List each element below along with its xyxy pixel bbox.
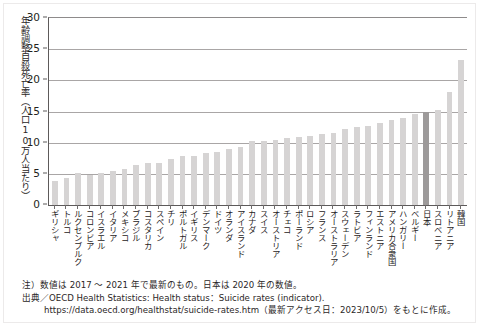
x-tick-label-オランダ: オランダ [224, 210, 232, 242]
x-tick-label-ハンガリー: ハンガリー [398, 210, 406, 250]
bar-メキシコ [122, 169, 128, 205]
x-tick-label-スロベニア: スロベニア [433, 210, 441, 250]
x-tick-label-ロシア: ロシア [305, 210, 313, 234]
figure-page: 年齢調整自殺死亡率（人口10万人当たり） 051015202530 ギリシャトル… [0, 0, 482, 332]
x-tick-mark-アイスランド [240, 205, 241, 209]
x-tick-label-アメリカ合衆国: アメリカ合衆国 [386, 210, 394, 266]
x-tick-mark-トルコ [65, 205, 66, 209]
bar-イスラエル [98, 173, 104, 205]
x-tick-mark-コスタリカ [147, 205, 148, 209]
y-tick-mark-25 [43, 48, 47, 49]
x-tick-mark-イギリス [193, 205, 194, 209]
x-tick-label-カナダ: カナダ [247, 210, 255, 234]
x-tick-label-日本: 日本 [421, 210, 429, 226]
y-axis-tick-group: 051015202530 [0, 0, 46, 206]
y-tick-mark-15 [43, 110, 47, 111]
x-tick-label-フランス: フランス [317, 210, 325, 242]
bar-group [49, 18, 467, 205]
y-tick-label-25: 25 [27, 42, 40, 54]
source-url[interactable]: https://data.oecd.org/healthstat/suicide… [22, 304, 259, 317]
x-tick-mark-アメリカ合衆国 [391, 205, 392, 209]
y-tick-label-5: 5 [33, 167, 40, 179]
y-tick-label-15: 15 [27, 105, 40, 117]
bar-イギリス [191, 156, 197, 205]
source-text: OECD Health Statistics: Health status：Su… [49, 293, 325, 303]
x-tick-label-アイスランド: アイスランド [235, 210, 243, 258]
bar-日本 [423, 112, 429, 206]
x-tick-mark-スウェーデン [344, 205, 345, 209]
bar-ラトビア [354, 127, 360, 205]
bar-チェコ [284, 138, 290, 205]
x-tick-mark-エストニア [379, 205, 380, 209]
x-tick-label-リトアニア: リトアニア [444, 210, 452, 250]
x-tick-mark-フィンランド [367, 205, 368, 209]
x-axis-label-group: ギリシャトルコルクセンブルクコロンビアイスラエルイタリアメキシコブラジルコスタリ… [48, 210, 466, 280]
x-tick-label-ブラジル: ブラジル [131, 210, 139, 242]
x-tick-mark-ポーランド [298, 205, 299, 209]
x-tick-mark-ベルギー [414, 205, 415, 209]
x-tick-mark-ロシア [309, 205, 310, 209]
x-tick-mark-チリ [170, 205, 171, 209]
x-tick-label-スウェーデン: スウェーデン [340, 210, 348, 258]
y-tick-label-10: 10 [27, 136, 40, 148]
note-label: 注） [22, 279, 40, 292]
x-tick-label-ギリシャ: ギリシャ [50, 210, 58, 242]
bar-スイス [261, 141, 267, 205]
x-tick-mark-フランス [321, 205, 322, 209]
x-tick-label-イスラエル: イスラエル [96, 210, 104, 250]
note-text: 数値は 2017 ～ 2021 年で最新のもの。日本は 2020 年の数値。 [40, 280, 302, 290]
x-tick-mark-スペイン [158, 205, 159, 209]
x-tick-mark-イスラエル [100, 205, 101, 209]
y-tick-mark-20 [43, 79, 47, 80]
x-tick-label-イタリア: イタリア [108, 210, 116, 242]
x-tick-label-コロンビア: コロンビア [84, 210, 92, 250]
x-tick-mark-オランダ [228, 205, 229, 209]
bar-コスタリカ [145, 163, 151, 205]
x-tick-label-ドイツ: ドイツ [212, 210, 220, 234]
bar-ギリシャ [52, 181, 58, 205]
plot-area [48, 17, 467, 205]
x-tick-mark-ギリシャ [54, 205, 55, 209]
x-tick-mark-コロンビア [89, 205, 90, 209]
bar-スロベニア [435, 110, 441, 205]
bar-ベルギー [412, 114, 418, 205]
x-tick-label-ベルギー: ベルギー [410, 210, 418, 242]
bar-ブラジル [133, 165, 139, 205]
x-tick-label-ポーランド: ポーランド [293, 210, 301, 250]
x-tick-label-メキシコ: メキシコ [119, 210, 127, 242]
bar-トルコ [64, 178, 70, 205]
bar-ポーランド [296, 137, 302, 205]
bar-イタリア [110, 171, 116, 205]
x-tick-mark-ハンガリー [402, 205, 403, 209]
y-tick-label-0: 0 [33, 198, 40, 210]
figure-notes: 注）数値は 2017 ～ 2021 年で最新のもの。日本は 2020 年の数値。… [22, 279, 472, 317]
bar-アイスランド [238, 147, 244, 205]
x-tick-label-ラトビア: ラトビア [351, 210, 359, 242]
y-tick-label-30: 30 [27, 11, 40, 23]
x-tick-label-エストニア: エストニア [375, 210, 383, 250]
x-tick-mark-メキシコ [123, 205, 124, 209]
x-tick-label-チェコ: チェコ [282, 210, 290, 234]
x-tick-mark-イタリア [112, 205, 113, 209]
bar-フィンランド [365, 126, 371, 205]
x-tick-label-デンマーク: デンマーク [201, 210, 209, 250]
x-tick-mark-ドイツ [216, 205, 217, 209]
x-tick-mark-ポルトガル [182, 205, 183, 209]
x-tick-mark-ラトビア [356, 205, 357, 209]
x-tick-label-ポルトガル: ポルトガル [177, 210, 185, 250]
x-tick-mark-スイス [263, 205, 264, 209]
x-tick-label-フィンランド: フィンランド [363, 210, 371, 258]
x-tick-mark-韓国 [460, 205, 461, 209]
x-tick-mark-ルクセンブルク [77, 205, 78, 209]
x-tick-label-コスタリカ: コスタリカ [142, 210, 150, 250]
y-tick-mark-30 [43, 17, 47, 18]
y-tick-mark-10 [43, 141, 47, 142]
x-tick-mark-リトアニア [449, 205, 450, 209]
x-tick-label-トルコ: トルコ [61, 210, 69, 234]
x-tick-mark-日本 [425, 205, 426, 209]
bar-スペイン [156, 163, 162, 205]
bar-ドイツ [214, 152, 220, 205]
bar-コロンビア [87, 175, 93, 205]
bar-オランダ [226, 149, 232, 205]
x-tick-label-韓国: 韓国 [456, 210, 464, 226]
